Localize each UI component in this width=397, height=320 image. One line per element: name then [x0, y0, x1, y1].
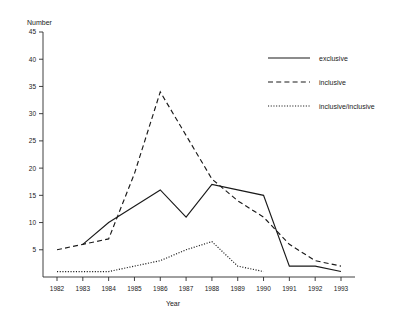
legend-label[interactable]: inclusive/inclusive — [319, 103, 375, 110]
series-line-exclusive — [83, 184, 341, 271]
x-tick-label: 1984 — [101, 285, 116, 292]
y-axis: 51015202530354045 — [29, 28, 43, 277]
y-tick-label: 40 — [29, 56, 37, 63]
y-axis-title: Number — [27, 19, 53, 26]
x-tick-label: 1989 — [230, 285, 245, 292]
x-tick-label: 1986 — [153, 285, 168, 292]
x-tick-label: 1991 — [282, 285, 297, 292]
y-tick-label: 5 — [32, 246, 36, 253]
series-line-inclusive — [57, 92, 341, 266]
x-tick-label: 1990 — [256, 285, 271, 292]
x-tick-label: 1983 — [76, 285, 91, 292]
y-tick-label: 35 — [29, 83, 37, 90]
x-tick-label: 1992 — [308, 285, 323, 292]
legend-label[interactable]: inclusive — [319, 79, 346, 86]
x-tick-label: 1993 — [334, 285, 349, 292]
series-line-inclusive-inclusive — [57, 242, 264, 272]
x-tick-label: 1988 — [205, 285, 220, 292]
x-axis: 1982198319841985198619871988198919901991… — [43, 277, 355, 292]
x-tick-label: 1982 — [50, 285, 65, 292]
chart-figure: Number 51015202530354045 198219831984198… — [0, 0, 397, 320]
y-tick-label: 45 — [29, 28, 37, 35]
data-series-group — [57, 92, 341, 272]
legend-label[interactable]: exclusive — [319, 55, 348, 62]
y-tick-label: 15 — [29, 192, 37, 199]
y-tick-label: 10 — [29, 219, 37, 226]
y-tick-label: 20 — [29, 165, 37, 172]
line-chart-canvas: Number 51015202530354045 198219831984198… — [0, 0, 397, 320]
x-axis-title: Year — [166, 300, 181, 307]
chart-legend: exclusiveinclusiveinclusive/inclusive — [268, 55, 375, 110]
y-tick-label: 30 — [29, 110, 37, 117]
x-tick-label: 1987 — [179, 285, 194, 292]
y-tick-label: 25 — [29, 137, 37, 144]
x-tick-label: 1985 — [127, 285, 142, 292]
